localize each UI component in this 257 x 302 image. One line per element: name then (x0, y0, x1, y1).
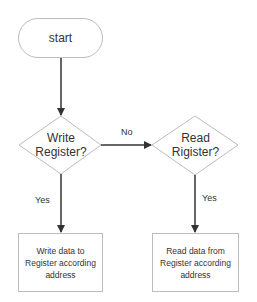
write-process-label: Write data to Register according address (18, 234, 103, 292)
edge-label-no: No (121, 127, 133, 137)
write-process-label-line3: address (45, 269, 75, 281)
read-decision-label: Read Rigister? (153, 124, 238, 166)
start-label: start (18, 18, 103, 58)
read-process-label-line2: Register according (160, 257, 231, 269)
edge-label-yes-read: Yes (202, 193, 217, 203)
edge-label-yes-write: Yes (35, 195, 50, 205)
read-process-label-line3: address (180, 269, 210, 281)
write-process-label-line2: Register according (25, 257, 96, 269)
write-process-label-line1: Write data to (36, 245, 84, 257)
write-decision-label-line2: Register? (35, 145, 86, 159)
write-decision-label-line1: Write (47, 131, 75, 145)
read-process-label-line1: Read data from (166, 245, 225, 257)
read-decision-label-line2: Rigister? (172, 145, 219, 159)
read-process-label: Read data from Register according addres… (152, 234, 239, 292)
write-decision-label: Write Register? (19, 124, 103, 166)
read-decision-label-line1: Read (181, 131, 210, 145)
